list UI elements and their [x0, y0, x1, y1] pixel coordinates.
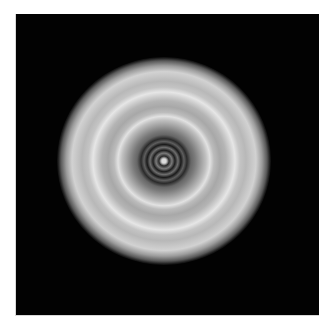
- image-frame: [15, 14, 319, 316]
- concentric-ring-pattern: [57, 57, 271, 265]
